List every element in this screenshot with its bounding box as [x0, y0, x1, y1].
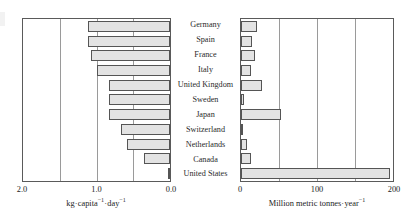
left-tick-label: 0.0 — [166, 185, 176, 194]
bar-row — [23, 93, 170, 108]
right-tick-label: 200 — [388, 185, 401, 194]
left-bar[interactable] — [121, 124, 170, 135]
bar-row — [241, 63, 393, 78]
left-bar[interactable] — [97, 65, 171, 76]
right-bar[interactable] — [241, 153, 251, 164]
left-bar[interactable] — [91, 50, 170, 61]
left-bar[interactable] — [168, 168, 170, 179]
left-bar[interactable] — [144, 153, 170, 164]
left-axis-title-sup2: −1 — [119, 197, 125, 203]
right-bar[interactable] — [241, 139, 247, 150]
category-label: Sweden — [171, 93, 240, 108]
category-label: United States — [171, 167, 240, 182]
left-bar[interactable] — [88, 21, 170, 32]
right-axis-title: Million metric tonnes·year−1 — [269, 199, 366, 208]
right-axis-title-sup1: −1 — [359, 197, 365, 203]
left-axis-title-b: capita — [78, 199, 98, 208]
bar-row — [241, 166, 393, 181]
category-label: Spain — [171, 33, 240, 48]
right-plot-panel — [240, 18, 394, 182]
category-label: Italy — [171, 63, 240, 78]
right-axis-title-a: Million metric tonnes — [269, 199, 342, 208]
bar-row — [23, 19, 170, 34]
left-axis-title-c: day — [107, 199, 119, 208]
bar-row — [23, 78, 170, 93]
left-axis-title: kg·capita−1·day−1 — [66, 199, 126, 208]
left-plot-panel — [22, 18, 171, 182]
bar-row — [241, 107, 393, 122]
left-axis-ticks: 2.01.00.0 — [22, 185, 171, 197]
bar-row — [23, 151, 170, 166]
bar-row — [23, 137, 170, 152]
right-axis-title-b: year — [344, 199, 358, 208]
right-bar[interactable] — [241, 94, 244, 105]
bar-row — [23, 48, 170, 63]
right-bar[interactable] — [241, 36, 252, 47]
right-tick-label: 100 — [311, 185, 324, 194]
left-bar[interactable] — [88, 36, 170, 47]
right-tick-label: 0 — [238, 185, 242, 194]
category-label: United Kingdom — [171, 78, 240, 93]
bar-row — [23, 107, 170, 122]
bar-row — [241, 78, 393, 93]
left-tick-label: 1.0 — [91, 185, 101, 194]
bar-row — [241, 122, 393, 137]
left-bar[interactable] — [127, 139, 170, 150]
chart-figure: 2.01.00.0 kg·capita−1·day−1 GermanySpain… — [0, 0, 416, 224]
bar-row — [241, 93, 393, 108]
bar-row — [23, 166, 170, 181]
right-bar[interactable] — [241, 109, 281, 120]
right-bar[interactable] — [241, 80, 262, 91]
category-label: Germany — [171, 18, 240, 33]
right-bar[interactable] — [241, 50, 255, 61]
bar-row — [241, 151, 393, 166]
left-bar-group — [23, 19, 170, 181]
category-label-column: GermanySpainFranceItalyUnited KingdomSwe… — [171, 18, 240, 182]
category-label: Canada — [171, 152, 240, 167]
right-bar[interactable] — [241, 21, 257, 32]
bar-row — [241, 137, 393, 152]
left-bar[interactable] — [109, 109, 170, 120]
bar-row — [23, 63, 170, 78]
right-bar-group — [241, 19, 393, 181]
right-bar[interactable] — [241, 168, 390, 179]
right-axis-ticks: 0100200 — [240, 185, 394, 197]
category-label: Japan — [171, 107, 240, 122]
left-tick-label: 2.0 — [17, 185, 27, 194]
category-label: Switzerland — [171, 122, 240, 137]
right-gridline — [393, 19, 394, 181]
bar-row — [241, 48, 393, 63]
bar-row — [241, 19, 393, 34]
bar-row — [23, 122, 170, 137]
left-bar[interactable] — [109, 94, 170, 105]
crop-edge-artifact — [0, 12, 5, 26]
bar-row — [241, 34, 393, 49]
category-label: France — [171, 48, 240, 63]
right-bar[interactable] — [241, 124, 243, 135]
left-bar[interactable] — [109, 80, 170, 91]
category-label: Netherlands — [171, 137, 240, 152]
bar-row — [23, 34, 170, 49]
right-bar[interactable] — [241, 65, 251, 76]
